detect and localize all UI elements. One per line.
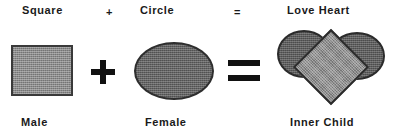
equals-bottom-bar [228, 75, 260, 81]
circle-shape [134, 42, 214, 100]
equals-sign-small-icon: = [234, 6, 240, 19]
plus-vertical-bar [100, 60, 106, 84]
caption-male: Male [21, 116, 48, 129]
square-shape [11, 45, 73, 96]
label-square: Square [22, 4, 63, 17]
equals-top-bar [228, 60, 260, 66]
caption-female: Female [145, 116, 187, 129]
caption-inner-child: Inner Child [290, 116, 354, 129]
plus-sign-small-icon: + [106, 6, 112, 19]
heart-shape [277, 28, 389, 106]
equals-sign-icon [228, 60, 260, 81]
diagram-canvas: Square + Circle = Love Heart Male Female… [0, 0, 404, 138]
label-circle: Circle [140, 4, 174, 17]
label-love-heart: Love Heart [287, 4, 350, 17]
plus-sign-icon [91, 60, 115, 84]
